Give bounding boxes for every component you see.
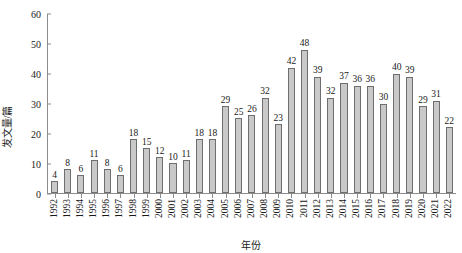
x-tick-label: 2020 [418, 199, 428, 218]
x-label-slot: 2021 [430, 199, 443, 235]
x-tick-mark [147, 194, 148, 198]
bar[interactable] [64, 169, 71, 193]
bar[interactable] [183, 160, 190, 193]
bar[interactable] [406, 77, 413, 193]
x-tick-label: 1998 [129, 199, 139, 218]
x-tick-slot [153, 194, 166, 198]
bar-slot: 4 [48, 14, 61, 193]
x-tick-slot [403, 194, 416, 198]
x-label-slot: 2011 [298, 199, 311, 235]
bar-slot: 39 [311, 14, 324, 193]
bar[interactable] [117, 175, 124, 193]
bar-slot: 8 [61, 14, 74, 193]
x-label-slot: 2007 [245, 199, 258, 235]
x-tick-mark [370, 194, 371, 198]
bar[interactable] [354, 86, 361, 193]
x-tick-slot [324, 194, 337, 198]
bar[interactable] [393, 74, 400, 193]
bar-value-label: 36 [366, 75, 376, 85]
x-tick-label: 2015 [352, 199, 362, 218]
y-tick-label: 10 [31, 159, 47, 170]
bar-value-label: 29 [418, 96, 428, 106]
bar[interactable] [301, 50, 308, 193]
bar[interactable] [314, 77, 321, 193]
x-tick-label: 2022 [445, 199, 455, 218]
bar-chart: 发文量/篇 0102030405060 48611861815121011181… [0, 0, 462, 253]
x-tick-label: 1994 [76, 199, 86, 218]
bar[interactable] [262, 98, 269, 193]
bar-value-label: 36 [352, 75, 362, 85]
bar[interactable] [104, 169, 111, 193]
x-tick-mark [423, 194, 424, 198]
x-label-slot: 2019 [403, 199, 416, 235]
x-tick-mark [160, 194, 161, 198]
bar-slot: 15 [140, 14, 153, 193]
bar[interactable] [288, 68, 295, 193]
bar-value-label: 29 [221, 96, 231, 106]
bar-value-label: 31 [431, 90, 441, 100]
bar[interactable] [433, 101, 440, 193]
x-tick-label: 1993 [63, 199, 73, 218]
bar-value-label: 40 [392, 63, 402, 73]
bar[interactable] [51, 181, 58, 193]
bar[interactable] [248, 115, 255, 193]
bar[interactable] [340, 83, 347, 193]
bar-value-label: 32 [260, 87, 270, 97]
x-tick-slot [259, 194, 272, 198]
bar[interactable] [196, 139, 203, 193]
bar[interactable] [235, 118, 242, 193]
bar[interactable] [327, 98, 334, 193]
x-tick-slot [232, 194, 245, 198]
bar[interactable] [143, 148, 150, 193]
x-label-slot: 1996 [101, 199, 114, 235]
bar-slot: 29 [416, 14, 429, 193]
bar[interactable] [275, 124, 282, 193]
x-tick-mark [134, 194, 135, 198]
bar[interactable] [380, 104, 387, 194]
bar[interactable] [130, 139, 137, 193]
bar-slot: 8 [101, 14, 114, 193]
x-tick-mark [278, 194, 279, 198]
x-label-slot: 2018 [390, 199, 403, 235]
bar-value-label: 8 [65, 159, 70, 169]
x-tick-label: 2013 [326, 199, 336, 218]
bar-value-label: 42 [287, 57, 297, 67]
bar-slot: 32 [259, 14, 272, 193]
x-tick-label: 2017 [379, 199, 389, 218]
x-tick-label: 2003 [195, 199, 205, 218]
bar-slot: 48 [298, 14, 311, 193]
bar-slot: 18 [193, 14, 206, 193]
bar-slot: 26 [245, 14, 258, 193]
x-label-slot: 2020 [416, 199, 429, 235]
bar[interactable] [419, 106, 426, 193]
x-tick-mark [226, 194, 227, 198]
x-label-slot: 2008 [259, 199, 272, 235]
x-tick-slot [285, 194, 298, 198]
bar[interactable] [169, 163, 176, 193]
bar-value-label: 39 [313, 66, 323, 76]
bar[interactable] [77, 175, 84, 193]
bar[interactable] [446, 127, 453, 193]
bar[interactable] [156, 157, 163, 193]
bar-value-label: 15 [142, 138, 152, 148]
x-tick-mark [383, 194, 384, 198]
bar[interactable] [222, 106, 229, 193]
x-tick-slot [140, 194, 153, 198]
x-label-slot: 2000 [153, 199, 166, 235]
x-tick-mark [305, 194, 306, 198]
bar[interactable] [91, 160, 98, 193]
bar[interactable] [367, 86, 374, 193]
bar-value-label: 11 [89, 150, 98, 160]
x-tick-mark [199, 194, 200, 198]
bar-series: 4861186181512101118182925263223424839323… [48, 14, 456, 193]
bar-slot: 32 [324, 14, 337, 193]
x-tick-label: 1997 [116, 199, 126, 218]
bar-value-label: 6 [79, 165, 84, 175]
x-tick-label: 2018 [392, 199, 402, 218]
x-label-slot: 2005 [219, 199, 232, 235]
bar-value-label: 18 [129, 129, 139, 139]
bar-slot: 31 [430, 14, 443, 193]
bar-value-label: 26 [247, 105, 257, 115]
bar[interactable] [209, 139, 216, 193]
bar-value-label: 8 [105, 159, 110, 169]
